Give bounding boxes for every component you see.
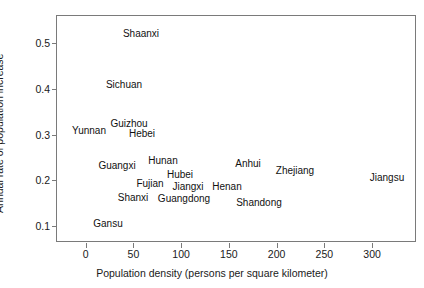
- x-axis-tick-label: 0: [83, 249, 89, 260]
- data-point-label: Hebei: [129, 129, 155, 139]
- y-axis-tick: [52, 43, 57, 44]
- data-point-label: Shanxi: [118, 193, 149, 203]
- y-axis-title: Annual rate of population increase: [0, 54, 4, 213]
- y-axis-tick: [52, 226, 57, 227]
- data-point-label: Jiangsu: [370, 173, 404, 183]
- data-point-label: Jiangxi: [172, 182, 203, 192]
- y-axis-tick-label: 0.4: [35, 84, 50, 95]
- plot-area: 0501001502002503000.10.20.30.40.5Shaanxi…: [56, 15, 416, 242]
- data-point-label: Henan: [212, 182, 241, 192]
- x-axis-tick-label: 150: [220, 249, 238, 260]
- data-point-label: Guangxi: [98, 161, 135, 171]
- x-axis-tick-label: 250: [316, 249, 334, 260]
- y-axis-tick-label: 0.5: [35, 38, 50, 49]
- data-point-label: Guangdong: [158, 194, 210, 204]
- y-axis-tick: [52, 180, 57, 181]
- x-axis-tick-label: 100: [172, 249, 190, 260]
- data-point-label: Hunan: [148, 156, 177, 166]
- data-point-label: Yunnan: [72, 126, 106, 136]
- x-axis-title: Population density (persons per square k…: [0, 268, 424, 279]
- data-point-label: Fujian: [136, 179, 163, 189]
- data-point-label: Anhui: [235, 159, 261, 169]
- x-axis-tick-label: 200: [268, 249, 286, 260]
- data-point-label: Shaanxi: [123, 29, 159, 39]
- data-point-label: Sichuan: [106, 80, 142, 90]
- data-point-label: Hubei: [167, 170, 193, 180]
- y-axis-tick-label: 0.1: [35, 221, 50, 232]
- data-point-label: Zhejiang: [276, 166, 314, 176]
- y-axis-tick-label: 0.3: [35, 130, 50, 141]
- data-point-label: Shandong: [236, 198, 282, 208]
- y-axis-tick-label: 0.2: [35, 175, 50, 186]
- x-axis-tick-label: 50: [128, 249, 140, 260]
- x-axis-tick-label: 300: [363, 249, 381, 260]
- scatter-plot: 0501001502002503000.10.20.30.40.5Shaanxi…: [0, 0, 424, 288]
- y-axis-tick: [52, 89, 57, 90]
- data-point-label: Gansu: [93, 219, 122, 229]
- y-axis-tick: [52, 135, 57, 136]
